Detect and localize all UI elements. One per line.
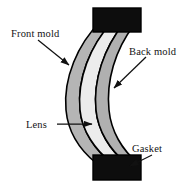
diagram-canvas: Front mold Back mold Lens Gasket [0,0,195,188]
back-mold-leader [114,57,146,88]
gasket-bottom-shape [93,155,141,180]
gasket-top-shape [93,8,141,32]
lens-mold-diagram: Front mold Back mold Lens Gasket [0,0,195,188]
gasket-label: Gasket [132,143,162,154]
back-mold-label: Back mold [129,46,177,57]
front-mold-leader [38,40,69,65]
mold-assembly [66,8,141,180]
lens-label: Lens [26,119,47,130]
front-mold-label: Front mold [11,28,60,39]
